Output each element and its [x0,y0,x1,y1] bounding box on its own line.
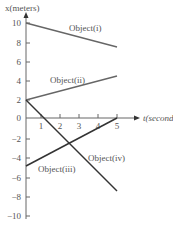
label-object-iii: Object(iii) [38,164,76,174]
y-tick-label: 10 [12,18,22,28]
label-object-i: Object(i) [69,23,101,33]
y-tick-label: −8 [11,192,21,202]
y-tick-label: −10 [7,211,22,221]
x-tick-label: 1 [39,121,44,131]
y-ticks [26,23,30,216]
x-tick-label: 3 [77,121,82,131]
y-tick-label: 4 [17,76,22,86]
y-tick-label: −4 [11,153,21,163]
y-tick-label: 0 [17,113,22,123]
y-tick-label: −6 [11,173,21,183]
y-tick-label: 8 [17,38,22,48]
x-tick-label: 5 [115,121,120,131]
y-axis-label: x(meters) [5,3,39,13]
x-ticks [41,114,117,118]
x-axis-arrow-icon [134,116,140,121]
x-tick-label: 2 [58,121,63,131]
y-tick-label: −2 [11,134,21,144]
x-axis-label: t(seconds [143,113,173,123]
label-object-iv: Object(iv) [88,153,125,163]
label-object-ii: Object(ii) [50,75,85,85]
series-object-iv [26,100,117,191]
y-tick-label: 2 [17,95,22,105]
position-time-chart: 10 8 6 4 2 0 −2 −4 −6 −8 −10 1 2 3 4 5 x… [0,0,173,229]
y-tick-label: 6 [17,57,22,67]
